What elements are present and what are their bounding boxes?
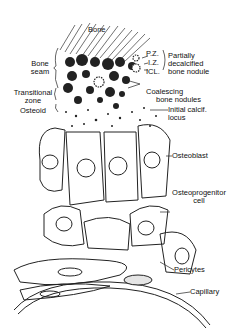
label-transitional-zone: Transitional zone [12, 89, 54, 105]
osteoblast-cells [39, 125, 170, 205]
label-coalescing-nodules: Coalescing bone nodules [146, 88, 201, 104]
pericyte-cells [14, 259, 127, 300]
label-pericytes: Pericytes [174, 266, 205, 274]
capillary-wall [14, 275, 210, 328]
label-icl: ICL. [146, 68, 160, 76]
label-partially-decalcified: Partially decalcified bone nodule [168, 52, 209, 76]
label-bone-seam: Bone seam [26, 60, 54, 76]
label-initial-calcif-locus: Initial calcif. locus [168, 106, 207, 122]
label-iz: I.Z. [148, 59, 159, 67]
leader-lines [54, 48, 190, 294]
label-osteoid: Osteoid [20, 107, 46, 115]
label-osteoblast: Osteoblast [172, 152, 208, 160]
label-pz: P.Z. [146, 50, 159, 58]
osteoid-dots [65, 107, 157, 127]
bone-formation-illustration: Bone Bone seam P.Z. I.Z. ICL. Partially … [0, 0, 241, 335]
label-osteoprogenitor-cell: Osteoprogenitor cell [170, 189, 228, 205]
osteoprogenitor-cells [44, 206, 196, 274]
illustration-drawing [0, 0, 241, 335]
label-capillary: Capillary [190, 288, 219, 296]
label-bone: Bone [88, 26, 106, 34]
